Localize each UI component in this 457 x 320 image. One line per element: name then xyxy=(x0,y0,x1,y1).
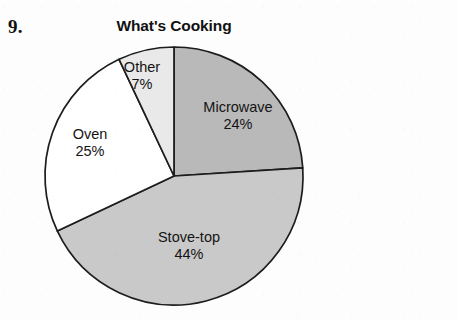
slice-label-other-name: Other xyxy=(124,59,160,75)
slice-label-stove-top: Stove-top 44% xyxy=(128,229,250,263)
pie-slice-group xyxy=(45,47,303,305)
slice-label-stove-top-value: 44% xyxy=(128,246,250,263)
slice-label-microwave: Microwave 24% xyxy=(186,99,290,133)
slice-label-oven-value: 25% xyxy=(52,143,128,160)
slice-label-microwave-value: 24% xyxy=(186,116,290,133)
slice-label-other: Other 7% xyxy=(113,59,171,93)
pie-chart: Microwave 24% Stove-top 44% Oven 25% Oth… xyxy=(0,0,457,320)
slice-label-stove-top-name: Stove-top xyxy=(158,229,220,245)
slice-label-oven-name: Oven xyxy=(73,126,108,142)
slice-label-microwave-name: Microwave xyxy=(203,99,272,115)
slice-label-other-value: 7% xyxy=(113,76,171,93)
slice-label-oven: Oven 25% xyxy=(52,126,128,160)
pie-chart-svg xyxy=(0,0,457,320)
worksheet-page: 9. What's Cooking Microwave 24% Stove-to… xyxy=(0,0,457,320)
